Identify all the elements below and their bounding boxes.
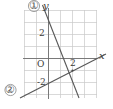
y-tick-label-2: 2 <box>39 29 45 38</box>
line-one-marker-label: ① <box>29 0 39 11</box>
line-two-marker-label: ② <box>5 84 15 95</box>
line-two-shallow-ascending <box>20 54 106 98</box>
y-tick-label-negative-2: -2 <box>37 78 46 87</box>
origin-label: O <box>37 60 44 69</box>
intersection-point <box>71 69 73 71</box>
coordinate-graph-figure: y x O 2 2 -2 ① ② <box>0 0 113 109</box>
coordinate-plot-svg <box>0 0 113 109</box>
grid-lines <box>24 10 97 98</box>
x-tick-label-2: 2 <box>70 59 76 68</box>
axis-label-y: y <box>43 1 49 11</box>
axis-label-x: x <box>99 51 105 61</box>
